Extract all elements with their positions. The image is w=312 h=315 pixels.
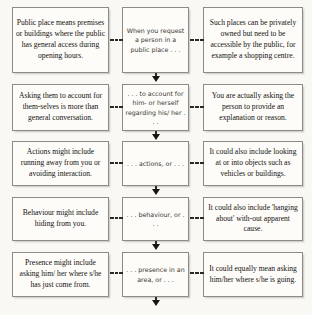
flow-box-text: Public place means premises or buildings… (16, 18, 105, 61)
arrow-head (152, 244, 160, 250)
flow-box-right: You are actually asking the person to pr… (203, 84, 303, 131)
flow-box-middle: . . . behaviour, or . . . (122, 197, 189, 241)
flow-box-middle: . . . actions, or . . . (122, 141, 189, 186)
flow-box-text: It could equally mean asking him/her whe… (207, 264, 299, 286)
flow-box-right: Such places can be privately owned but n… (203, 7, 303, 73)
down-arrow (149, 186, 163, 195)
flow-box-text: Behaviour might include hiding from you. (16, 208, 105, 230)
flowchart-diagram: Public place means premises or buildings… (0, 0, 312, 315)
down-arrow (149, 73, 163, 82)
flow-box-left: Presence might include asking him/ her w… (12, 252, 109, 297)
flow-box-right: It could also include looking at or into… (203, 141, 303, 186)
flow-box-text: . . . behaviour, or . . . (125, 210, 186, 229)
flow-box-text: When you request a person in a public pl… (125, 26, 186, 54)
flow-box-right: It could also include 'hanging about' wi… (203, 197, 303, 241)
flow-box-text: Presence might include asking him/ her w… (16, 258, 105, 290)
flow-box-text: You are actually asking the person to pr… (207, 91, 299, 123)
flow-row: Behaviour might include hiding from you.… (0, 197, 303, 241)
down-arrow (149, 131, 163, 140)
flow-box-text: . . . presence in an area, or . . . (125, 265, 186, 284)
flow-box-text: Asking them to account for them-selves i… (16, 91, 105, 123)
arrow-head (152, 134, 160, 140)
flow-box-text: Actions might include running away from … (16, 147, 105, 179)
flow-row: Actions might include running away from … (0, 141, 303, 186)
flow-box-middle: . . . presence in an area, or . . . (122, 252, 189, 297)
flow-box-text: Such places can be privately owned but n… (207, 18, 299, 61)
arrow-head (152, 76, 160, 82)
flow-box-middle: . . . to account for him- or herself reg… (122, 84, 189, 131)
flow-box-right: It could equally mean asking him/her whe… (203, 252, 303, 297)
flow-row: Asking them to account for them-selves i… (0, 84, 303, 131)
flow-box-left: Actions might include running away from … (12, 141, 109, 186)
arrow-head (152, 189, 160, 195)
down-arrow-final (149, 297, 163, 306)
flow-box-text: It could also include 'hanging about' wi… (207, 203, 299, 235)
flow-box-text: It could also include looking at or into… (207, 147, 299, 179)
flow-box-text: . . . actions, or . . . (127, 159, 184, 168)
flow-box-text: . . . to account for him- or herself reg… (125, 89, 186, 127)
arrow-head (152, 300, 160, 306)
flow-box-left: Behaviour might include hiding from you. (12, 197, 109, 241)
flow-box-left: Public place means premises or buildings… (12, 7, 109, 73)
flow-box-middle: When you request a person in a public pl… (122, 7, 189, 73)
flow-row: Public place means premises or buildings… (0, 7, 303, 73)
flow-box-left: Asking them to account for them-selves i… (12, 84, 109, 131)
down-arrow (149, 241, 163, 250)
flow-row: Presence might include asking him/ her w… (0, 252, 303, 297)
